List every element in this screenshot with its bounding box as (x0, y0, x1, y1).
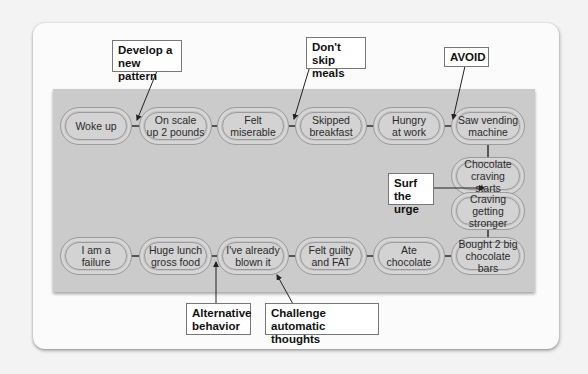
callout-avoid: AVOID (444, 47, 489, 67)
callout-challenge-thoughts: Challenge automatic thoughts (265, 303, 379, 335)
arrow-avoid (453, 66, 465, 119)
arrow-challenge (277, 275, 293, 304)
arrow-dont-skip (294, 66, 310, 119)
callout-surf-the-urge: Surf the urge (388, 173, 434, 205)
callout-alternative-behavior: Alternative behavior (186, 303, 251, 335)
callout-dont-skip-meals: Don't skip meals (306, 37, 366, 69)
callout-develop-pattern: Develop a new pattern (112, 40, 182, 72)
